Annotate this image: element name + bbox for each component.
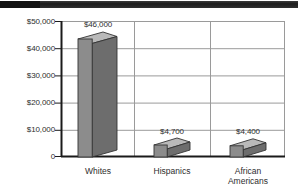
- bar-whites[interactable]: [78, 32, 117, 157]
- category-label-african-americans-line2: Americans: [219, 176, 277, 186]
- y-tick-label-0: 0: [4, 153, 55, 161]
- y-tick-label-10000: $10,000: [4, 126, 55, 134]
- y-tick-label-20000: $20,000: [4, 99, 55, 107]
- y-tick-label-30000: $30,000: [4, 72, 55, 80]
- value-label-african-americans: $4,400: [220, 128, 276, 136]
- y-tick-label-50000: $50,000: [4, 18, 55, 26]
- category-label-hispanics-line1: Hispanics: [143, 166, 201, 176]
- bar-whites-front-face: [78, 39, 92, 157]
- bar-african-americans-front-face: [230, 146, 243, 157]
- category-label-african-americans-line1: African: [219, 166, 277, 176]
- category-label-hispanics: Hispanics: [143, 166, 201, 176]
- value-label-hispanics: $4,700: [144, 128, 200, 136]
- bar-hispanics-front-face: [154, 145, 167, 157]
- bar-chart-plot: [0, 0, 298, 193]
- category-label-african-americans: African Americans: [219, 166, 277, 186]
- y-tick-label-40000: $40,000: [4, 45, 55, 53]
- category-label-whites: Whites: [70, 166, 126, 176]
- category-label-whites-line1: Whites: [70, 166, 126, 176]
- value-label-whites: $46,000: [70, 21, 126, 29]
- y-axis-ticks: [55, 22, 61, 157]
- bar-whites-side-face: [92, 37, 117, 158]
- chart-figure: $50,000 $40,000 $30,000 $20,000 $10,000 …: [0, 0, 298, 193]
